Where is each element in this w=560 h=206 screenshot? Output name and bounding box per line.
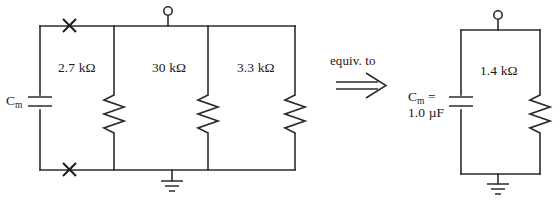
capacitor-left-label-subscript: m [15, 100, 23, 110]
equiv-to-label: equiv. to [330, 53, 376, 68]
circuit-figure: 2.7 kΩ 30 kΩ 3.3 kΩ Cm equiv. to Cm = 1.… [0, 0, 560, 206]
resistor-3-label: 3.3 kΩ [237, 60, 275, 76]
resistor-branch-2 [198, 26, 218, 170]
resistor-equivalent-label: 1.4 kΩ [480, 63, 518, 79]
capacitor-right-label-base: C [408, 89, 417, 104]
resistor-1-label: 2.7 kΩ [58, 60, 96, 76]
capacitor-left-label: Cm [6, 93, 23, 109]
capacitor-right-label-line1: Cm = [408, 89, 436, 104]
left-circuit-group [28, 7, 305, 191]
ground-symbol-left-icon [161, 170, 183, 191]
capacitor-right-label-equals: = [425, 89, 436, 104]
capacitor-left-label-base: C [6, 93, 15, 108]
resistor-branch-3 [285, 26, 305, 170]
open-circle-terminal-right-icon [494, 11, 502, 30]
capacitor-right-label-subscript: m [417, 96, 425, 106]
right-circuit-group [449, 11, 550, 194]
capacitor-right-label: Cm = 1.0 µF [408, 89, 444, 121]
resistor-branch-1 [104, 26, 124, 170]
open-circle-terminal-left-icon [164, 7, 172, 26]
equivalence-arrow-icon [336, 73, 386, 98]
ground-symbol-right-icon [487, 174, 509, 194]
capacitor-right-label-value: 1.0 µF [408, 105, 444, 120]
resistor-branch-equivalent [530, 30, 550, 174]
resistor-2-label: 30 kΩ [152, 60, 186, 76]
